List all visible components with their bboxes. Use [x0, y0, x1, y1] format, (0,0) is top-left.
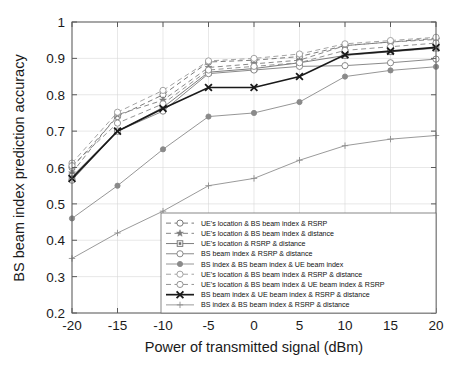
- legend-label: BS beam index & RSRP & distance: [201, 250, 313, 258]
- x-tick-label: 20: [428, 318, 443, 333]
- data-point-marker: [251, 63, 257, 69]
- line-chart: -20-15-10-5051015200.20.30.40.50.60.70.8…: [0, 0, 466, 376]
- data-point-marker: [251, 175, 257, 181]
- y-axis-title: BS beam index prediction accuracy: [11, 54, 27, 282]
- y-tick-label: 0.4: [46, 233, 65, 248]
- data-point-marker: [296, 60, 302, 66]
- data-point-marker: [387, 37, 393, 43]
- data-point-marker: [205, 67, 211, 73]
- data-point-marker: [177, 271, 183, 277]
- data-point-marker: [177, 220, 183, 226]
- data-point-marker: [387, 60, 393, 66]
- data-point-marker: [206, 114, 211, 119]
- y-tick-label: 0.8: [46, 88, 65, 103]
- x-tick-label: 0: [250, 318, 258, 333]
- data-point-marker: [205, 58, 211, 64]
- data-point-marker: [387, 136, 393, 142]
- x-tick-label: 5: [296, 318, 304, 333]
- data-point-marker: [114, 230, 120, 236]
- y-tick-label: 0.9: [46, 51, 65, 66]
- y-tick-label: 0.5: [46, 197, 65, 212]
- legend-label: UE's location & BS beam index & distance: [201, 230, 334, 238]
- data-point-marker: [342, 74, 347, 79]
- legend-label: UE's location & RSRP & distance: [201, 240, 306, 248]
- data-point-marker: [114, 120, 120, 126]
- data-point-marker: [177, 281, 183, 287]
- x-axis-title: Power of transmitted signal (dBm): [145, 339, 363, 355]
- data-point-marker-core: [179, 242, 182, 245]
- data-point-marker: [205, 182, 211, 188]
- data-point-marker: [342, 63, 348, 69]
- y-tick-label: 0.2: [46, 306, 65, 321]
- legend: UE's location & BS beam index & RSRPUE's…: [161, 213, 436, 313]
- data-point-marker: [114, 109, 120, 115]
- y-tick-label: 0.6: [46, 161, 65, 176]
- x-tick-label: -15: [108, 318, 128, 333]
- data-point-marker: [160, 87, 166, 93]
- chart-container: -20-15-10-5051015200.20.30.40.50.60.70.8…: [0, 0, 466, 376]
- y-tick-label: 0.7: [46, 124, 65, 139]
- legend-label: UE's location & BS beam index & RSRP & d…: [201, 271, 362, 279]
- data-point-marker: [388, 68, 393, 73]
- data-point-marker: [342, 41, 348, 47]
- legend-label: UE's location & BS beam index & RSRP: [201, 220, 328, 228]
- legend-label: BS beam index & UE beam index & RSRP & d…: [201, 291, 370, 299]
- legend-label: BS index & BS beam index & RSRP & distan…: [201, 301, 350, 309]
- data-point-marker: [177, 261, 182, 266]
- data-point-marker: [251, 110, 256, 115]
- x-tick-label: -5: [202, 318, 214, 333]
- data-point-marker: [160, 147, 165, 152]
- y-tick-label: 0.3: [46, 270, 65, 285]
- x-tick-label: 10: [337, 318, 352, 333]
- x-tick-label: 15: [383, 318, 398, 333]
- legend-label: UE's location & BS beam index & UE beam …: [201, 281, 385, 289]
- data-point-marker: [342, 142, 348, 148]
- data-point-marker: [297, 99, 302, 104]
- data-point-marker: [177, 251, 183, 257]
- legend-label: BS index & BS beam index & UE beam index: [201, 261, 344, 269]
- x-tick-label: -10: [153, 318, 173, 333]
- data-point-marker: [296, 51, 302, 57]
- data-point-marker: [296, 157, 302, 163]
- x-tick-label: -20: [62, 318, 82, 333]
- data-point-marker: [115, 183, 120, 188]
- data-point-marker: [251, 55, 257, 61]
- y-tick-label: 1: [57, 15, 65, 30]
